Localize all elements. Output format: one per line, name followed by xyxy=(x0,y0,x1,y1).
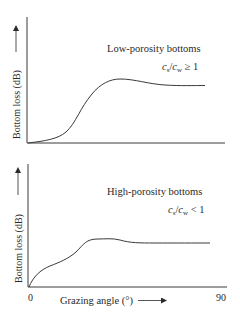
top-curve xyxy=(28,79,205,143)
figure: Bottom loss (dB) Low-porosity bottoms cs… xyxy=(0,0,240,320)
top-ratio: cs/cw ≥ 1 xyxy=(162,61,198,74)
bottom-plot: Bottom loss (dB) High-porosity bottoms c… xyxy=(13,164,227,307)
top-y-label: Bottom loss (dB) xyxy=(11,70,23,139)
bottom-curve xyxy=(29,239,210,287)
bottom-y-label: Bottom loss (dB) xyxy=(13,214,25,283)
x-axis-label: Grazing angle (°) xyxy=(60,295,134,307)
x-tick-0: 0 xyxy=(28,292,33,303)
top-title: Low-porosity bottoms xyxy=(107,43,201,54)
top-plot: Bottom loss (dB) Low-porosity bottoms cs… xyxy=(11,17,225,143)
bottom-ratio: cs/cw < 1 xyxy=(168,204,204,217)
x-tick-90: 90 xyxy=(216,292,226,303)
bottom-title: High-porosity bottoms xyxy=(107,186,202,197)
